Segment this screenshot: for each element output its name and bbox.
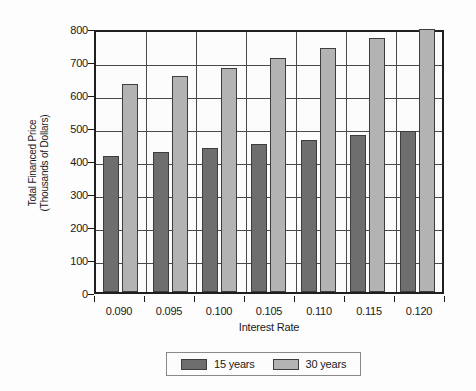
bar xyxy=(122,84,138,292)
y-axis-tick-mark xyxy=(88,129,94,130)
bar xyxy=(221,68,237,292)
y-axis-tick-label: 400 xyxy=(58,156,88,168)
legend-swatch xyxy=(181,359,207,370)
y-axis-tick-mark xyxy=(88,294,94,295)
bar xyxy=(419,29,435,292)
y-axis-tick-mark xyxy=(88,228,94,229)
bar xyxy=(251,144,267,293)
y-axis-tick-label: 600 xyxy=(58,90,88,102)
x-axis-tick-label: 0.095 xyxy=(144,305,194,321)
y-axis-tick-label: 0 xyxy=(58,288,88,300)
bar-group xyxy=(195,32,244,292)
y-axis-tick-label: 300 xyxy=(58,189,88,201)
x-axis-tick-labels: 0.0900.0950.1000.1050.1100.1150.120 xyxy=(94,305,444,321)
bar-group xyxy=(294,32,343,292)
bar xyxy=(320,48,336,292)
y-axis-tick-mark xyxy=(88,63,94,64)
bar xyxy=(202,148,218,292)
x-axis-tick-label: 0.105 xyxy=(244,305,294,321)
legend-label: 15 years xyxy=(214,358,255,370)
x-axis-tick-label: 0.090 xyxy=(94,305,144,321)
x-axis-tick-mark xyxy=(294,296,295,302)
bar xyxy=(369,38,385,292)
bar-group xyxy=(96,32,145,292)
bar xyxy=(400,131,416,292)
x-axis-tick-mark xyxy=(444,296,445,302)
y-axis-tick-labels: 0100200300400500600700800 xyxy=(56,0,88,391)
x-axis-tick-mark xyxy=(94,296,95,302)
legend-entry: 15 years xyxy=(181,358,255,370)
x-axis-title: Interest Rate xyxy=(94,321,444,333)
y-axis-title-line-2: (Thousands of Dollars) xyxy=(39,114,51,211)
x-axis-tick-mark xyxy=(144,296,145,302)
x-axis-tick-label: 0.110 xyxy=(294,305,344,321)
y-axis-tick-label: 500 xyxy=(58,123,88,135)
bar-group xyxy=(393,32,442,292)
y-axis-tick-label: 700 xyxy=(58,57,88,69)
plot-area xyxy=(94,30,444,294)
bar-group xyxy=(145,32,194,292)
x-axis-tick-mark xyxy=(244,296,245,302)
legend-entry: 30 years xyxy=(273,358,347,370)
x-axis-tick-mark xyxy=(394,296,395,302)
bar xyxy=(270,58,286,292)
chart-figure: Total Financed Price (Thousands of Dolla… xyxy=(0,0,476,391)
x-axis-tick-mark xyxy=(194,296,195,302)
x-axis-tick-mark xyxy=(344,296,345,302)
legend-label: 30 years xyxy=(306,358,347,370)
y-axis-tick-mark xyxy=(88,96,94,97)
chart-legend: 15 years30 years xyxy=(166,352,361,376)
bar xyxy=(103,156,119,292)
bar-group xyxy=(343,32,392,292)
bar xyxy=(301,140,317,292)
bar xyxy=(350,135,366,292)
y-axis-title: Total Financed Price (Thousands of Dolla… xyxy=(22,30,56,295)
y-axis-tick-label: 100 xyxy=(58,255,88,267)
y-axis-title-line-1: Total Financed Price xyxy=(27,114,39,211)
y-axis-tick-label: 200 xyxy=(58,222,88,234)
y-axis-tick-mark xyxy=(88,195,94,196)
bar xyxy=(153,152,169,292)
x-axis-tick-label: 0.115 xyxy=(344,305,394,321)
bar-group xyxy=(244,32,293,292)
legend-swatch xyxy=(273,359,299,370)
bar xyxy=(172,76,188,292)
y-axis-tick-mark xyxy=(88,30,94,31)
bar-groups xyxy=(96,32,442,292)
x-axis-tick-label: 0.120 xyxy=(394,305,444,321)
x-axis-tick-label: 0.100 xyxy=(194,305,244,321)
y-axis-tick-label: 800 xyxy=(58,24,88,36)
y-axis-tick-mark xyxy=(88,261,94,262)
y-axis-tick-mark xyxy=(88,162,94,163)
